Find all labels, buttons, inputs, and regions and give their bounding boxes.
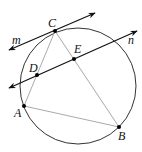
point-e xyxy=(72,57,76,61)
lines-group xyxy=(9,13,137,88)
points-group xyxy=(22,29,121,129)
point-label-a: A xyxy=(13,106,22,120)
line-label-n: n xyxy=(128,33,134,47)
segment-ab xyxy=(24,106,119,127)
diagram-svg: mnABCDE xyxy=(0,0,142,152)
line-label-m: m xyxy=(12,33,21,47)
geometry-diagram: mnABCDE xyxy=(0,0,142,152)
point-a xyxy=(22,104,26,108)
segment-cb xyxy=(55,31,119,127)
point-label-b: B xyxy=(118,129,126,143)
point-label-c: C xyxy=(48,16,57,30)
point-label-e: E xyxy=(73,42,82,56)
labels-group: mnABCDE xyxy=(12,16,134,143)
point-label-d: D xyxy=(28,61,38,75)
